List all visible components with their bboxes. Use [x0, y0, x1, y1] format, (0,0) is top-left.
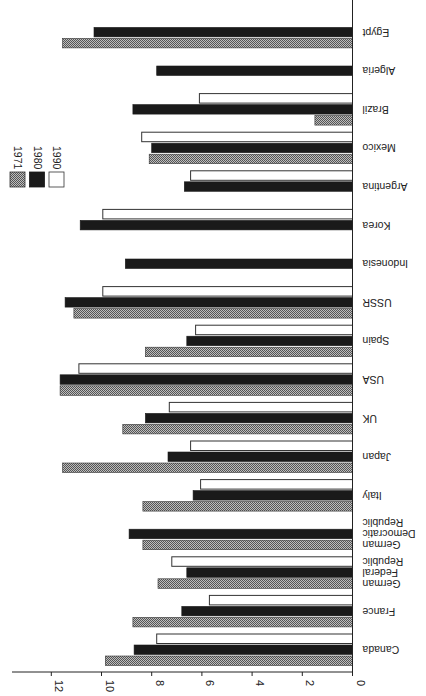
category-label: USSR — [362, 297, 392, 309]
bar-1990: Korea 1990: 9.95 — [103, 209, 353, 219]
bar-1990: UK 1990: 7.3 — [169, 402, 352, 412]
legend-swatch-1980 — [30, 172, 45, 187]
tick-label: 8 — [154, 680, 166, 686]
tick-label: 10 — [104, 680, 116, 692]
bar-1980: German Federal Republic 1980: 6.6 — [187, 568, 353, 578]
bar-1990: USA 1990: 10.9 — [79, 364, 353, 374]
category-label: Italy — [362, 490, 382, 502]
bar-1971: German Democratic Republic 1971: 8.35 — [143, 540, 353, 550]
legend: 197119801990 — [10, 146, 64, 187]
bar-1990: USSR 1990: 9.95 — [103, 287, 353, 297]
category-label: France — [362, 606, 395, 618]
bar-1980: Japan 1980: 7.35 — [168, 452, 353, 462]
bar-1971: Brazil 1971: 1.5 — [315, 116, 353, 126]
bar-1980: Korea 1980: 10.85 — [80, 220, 352, 230]
category-label-line: Argentina — [362, 181, 407, 193]
bar-1980: Brazil 1980: 8.75 — [133, 105, 353, 115]
tick-label: 12 — [53, 680, 65, 692]
category-label-line: Japan — [362, 451, 391, 463]
bar-1971: Spain 1971: 8.25 — [145, 347, 352, 357]
category-label-line: Indonesia — [362, 258, 408, 270]
bar-1990: Spain 1990: 6.25 — [196, 325, 353, 335]
bar-1990: Brazil 1990: 6.1 — [199, 94, 352, 104]
category-label-line: Italy — [362, 490, 382, 502]
category-label-line: USSR — [362, 297, 392, 309]
bar-1971: USA 1971: 11.65 — [60, 386, 352, 396]
category-label-line: France — [362, 606, 395, 618]
category-label: Egypt — [362, 27, 389, 39]
category-label: Spain — [362, 335, 389, 347]
category-label-line: USA — [363, 374, 385, 386]
bar-1971: Mexico 1971: 8.1 — [149, 154, 352, 164]
legend-swatch-1990 — [49, 172, 64, 187]
bar-1980: Indonesia 1980: 9.05 — [125, 259, 352, 269]
category-labels: CanadaFranceGermanFederalRepublicGermanD… — [362, 27, 416, 657]
tick-label: 6 — [204, 680, 216, 686]
category-label: Japan — [362, 451, 391, 463]
bar-1990: Italy 1990: 6.05 — [201, 480, 353, 490]
category-label: Algeria — [362, 65, 395, 77]
bar-1980: UK 1980: 8.25 — [145, 413, 352, 423]
category-label: USA — [363, 374, 385, 386]
bar-1990: German Federal Republic 1990: 7.2 — [172, 557, 353, 567]
bar-1980: USSR 1980: 11.45 — [65, 298, 352, 308]
tick-label: 0 — [355, 680, 367, 686]
bar-1980: Canada 1980: 8.7 — [134, 645, 352, 655]
legend-label-1971: 1971 — [12, 146, 24, 170]
bar-1971: Italy 1971: 8.35 — [143, 502, 353, 512]
category-label: Canada — [362, 644, 399, 656]
category-label-line: Mexico — [362, 142, 395, 154]
category-label-line: Brazil — [363, 104, 389, 116]
category-label: Brazil — [363, 104, 389, 116]
bar-1980: Spain 1980: 6.6 — [187, 336, 353, 346]
bar-1971: Egypt 1971: 11.55 — [63, 38, 353, 48]
category-label-line: Canada — [362, 644, 399, 656]
bar-1990: France 1990: 5.7 — [209, 595, 352, 605]
category-label: GermanFederalRepublic — [362, 556, 403, 590]
category-label: Korea — [362, 220, 390, 232]
category-label-line: Republic — [363, 517, 404, 529]
category-label-line: Algeria — [362, 65, 395, 77]
category-label-line: Egypt — [362, 27, 389, 39]
category-label-line: UK — [363, 413, 378, 425]
category-label: Indonesia — [362, 258, 408, 270]
bar-1980: German Democratic Republic 1980: 8.9 — [129, 529, 352, 539]
category-label: GermanDemocraticRepublic — [362, 517, 415, 551]
bar-1990: Mexico 1990: 8.4 — [142, 132, 353, 142]
bar-1971: Japan 1971: 11.55 — [63, 463, 353, 473]
bar-1980: USA 1980: 11.65 — [60, 375, 352, 385]
bar-1980: Egypt 1980: 10.3 — [94, 27, 353, 37]
bar-1990: Argentina 1990: 6.45 — [191, 171, 353, 181]
bar-1980: Algeria 1980: 7.8 — [157, 66, 353, 76]
bar-1971: German Federal Republic 1971: 7.75 — [158, 579, 353, 589]
bar-1971: UK 1971: 9.15 — [123, 424, 353, 434]
category-label-line: Spain — [362, 335, 389, 347]
category-label: Argentina — [362, 181, 407, 193]
bar-1980: France 1980: 6.8 — [182, 606, 353, 616]
tick-label: 4 — [254, 680, 266, 686]
bar-1980: Argentina 1980: 6.7 — [184, 182, 352, 192]
category-label: Mexico — [362, 142, 395, 154]
legend-label-1980: 1980 — [32, 146, 44, 170]
legend-swatch-1971 — [10, 172, 25, 187]
bar-1990: Canada 1990: 7.8 — [157, 634, 353, 644]
category-label-line: Republic — [363, 556, 404, 568]
bar-1990: Japan 1990: 6.45 — [191, 441, 353, 451]
legend-label-1990: 1990 — [51, 146, 63, 170]
bar-1971: France 1971: 8.75 — [133, 617, 353, 627]
bar-1980: Mexico 1980: 8 — [152, 143, 353, 153]
category-label: UK — [363, 413, 378, 425]
bars-layer: Canada 1990: 7.8Canada 1980: 8.7Canada 1… — [60, 27, 353, 665]
bar-1971: Canada 1971: 9.85 — [105, 656, 352, 666]
bar-1971: USSR 1971: 11.1 — [74, 309, 353, 319]
category-label-line: Korea — [362, 220, 390, 232]
bar-1980: Italy 1980: 6.35 — [193, 491, 352, 501]
bar-chart: Canada 1990: 7.8Canada 1980: 8.7Canada 1… — [0, 0, 426, 696]
tick-label: 2 — [304, 680, 316, 686]
